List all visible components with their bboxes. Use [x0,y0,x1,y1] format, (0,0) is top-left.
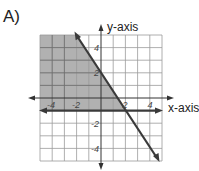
x-tick-label: 4 [147,100,152,110]
y-tick-label: 4 [94,43,99,53]
y-tick-label: -4 [91,144,99,154]
y-axis-label: y-axis [107,20,138,34]
graph: -4 -2 2 4 4 2 -2 -4 y-axis x-axis [0,0,199,171]
y-tick-label: -2 [91,119,99,129]
x-axis-label: x-axis [168,101,199,115]
x-tick-label: -2 [72,100,80,110]
x-tick-label: -4 [47,100,55,110]
y-tick-label: 2 [93,68,99,78]
x-tick-label: 2 [121,100,127,110]
